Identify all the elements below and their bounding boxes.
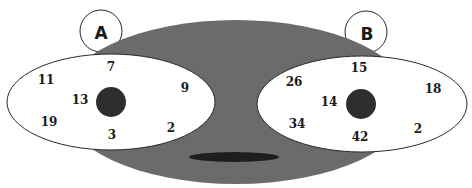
- left-eye-number: 7: [107, 60, 115, 74]
- right-eye-number: 26: [286, 75, 303, 89]
- left-eye-number: 3: [108, 128, 116, 142]
- left-eye-number: 11: [38, 73, 55, 87]
- left-eye-number: 13: [72, 93, 89, 107]
- label-b: B: [361, 24, 374, 44]
- left-eye: 7119131932: [7, 54, 215, 150]
- left-eye-number: 9: [181, 81, 189, 95]
- right-eye-number: 15: [351, 61, 368, 75]
- right-eye-number: 18: [425, 82, 442, 96]
- right-eye-number: 14: [321, 95, 338, 109]
- mouth: [189, 152, 279, 162]
- right-eye: 1526181434422: [257, 56, 467, 152]
- right-eye-number: 42: [352, 130, 369, 144]
- left-eye-number: 2: [167, 121, 175, 135]
- right-eye-number: 34: [289, 117, 306, 131]
- face-puzzle-diagram: A B 7119131932 1526181434422: [0, 0, 472, 188]
- right-eye-number: 2: [414, 122, 422, 136]
- right-pupil: [346, 89, 376, 119]
- left-eye-number: 19: [41, 115, 58, 129]
- left-pupil: [96, 87, 126, 117]
- label-a: A: [94, 23, 108, 43]
